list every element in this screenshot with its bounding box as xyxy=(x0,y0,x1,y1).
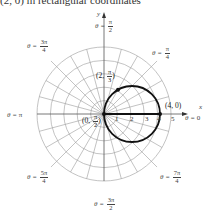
label-theta-5pi-4: θ = 5π4 xyxy=(27,170,48,184)
label-theta-pi-2: θ = π2 xyxy=(95,19,113,33)
tick-3: 3 xyxy=(145,116,149,123)
y-axis-label: y xyxy=(97,11,100,18)
polar-diagram: (2, 0) in rectangular coordinates y x 1 … xyxy=(0,0,214,222)
y-axis-arrow xyxy=(102,12,106,18)
tick-4: 4 xyxy=(157,116,161,123)
radial-line xyxy=(46,81,104,115)
label-point-2-pi3: (2, π3) xyxy=(96,69,115,83)
polar-grid-svg xyxy=(0,0,214,222)
point-origin xyxy=(102,112,106,116)
x-axis-label: x xyxy=(199,104,202,111)
tick-2: 2 xyxy=(130,116,134,123)
point-2-pi3 xyxy=(116,88,120,92)
label-theta-0: θ = 0 xyxy=(185,115,200,122)
label-theta-3pi-4: θ = 3π4 xyxy=(27,39,48,53)
label-theta-pi-4: θ = π4 xyxy=(152,46,170,60)
label-point-4-0: (4, 0) xyxy=(165,102,181,110)
radial-line xyxy=(39,97,104,114)
label-point-origin: (0, π2) xyxy=(82,114,101,128)
radial-line xyxy=(71,56,105,114)
label-theta-7pi-4: θ = 7π4 xyxy=(160,170,181,184)
label-theta-3pi-2: θ = 3π2 xyxy=(94,197,115,211)
radial-line xyxy=(104,56,138,114)
tick-1: 1 xyxy=(115,116,119,123)
label-theta-pi: θ = π xyxy=(7,112,22,119)
tick-5: 5 xyxy=(171,116,175,123)
